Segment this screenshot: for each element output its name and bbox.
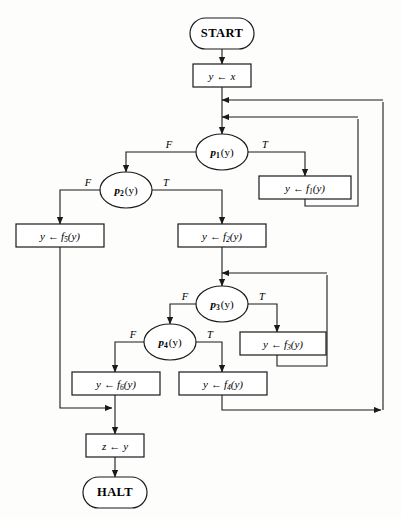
node-f5-lhs: y [39, 229, 45, 241]
node-f6-arg: (y) [124, 377, 137, 390]
node-f1[interactable]: y←f1(y) [259, 176, 351, 199]
node-init-arrow: ← [217, 69, 228, 81]
node-assign-z-lhs: z [101, 439, 107, 451]
node-f3-arrow: ← [271, 337, 282, 349]
node-p1-sub: 1 [216, 150, 220, 159]
node-p1-arg: (y) [221, 145, 234, 158]
branch-label-p1-false: F [165, 139, 173, 150]
node-p3-sub: 3 [216, 302, 220, 311]
edge-p2-false-to-f5 [60, 190, 100, 224]
node-init-val: x [230, 69, 236, 81]
node-f2-arrow: ← [210, 229, 221, 241]
branch-label-p3-true: T [259, 291, 266, 302]
node-f3-lhs: y [262, 337, 268, 349]
flowchart-diagram: START y←x p1(y) F T p2(y) F T [0, 0, 401, 519]
node-f1-arrow: ← [293, 181, 304, 193]
edge-p1-false-to-p2 [126, 152, 196, 172]
branch-label-p2-true: T [163, 177, 170, 188]
node-f5-arg: (y) [68, 229, 81, 242]
node-start[interactable]: START [190, 18, 254, 49]
node-assign-z[interactable]: z←y [86, 434, 144, 457]
node-f2-lhs: y [201, 229, 207, 241]
node-p4-arg: (y) [169, 335, 182, 348]
node-assign-z-rhs: y [122, 439, 128, 451]
node-p3[interactable]: p3(y) [196, 286, 248, 322]
node-start-label: START [201, 26, 244, 40]
node-f3[interactable]: y←f3(y) [240, 332, 326, 355]
node-f2[interactable]: y←f2(y) [178, 224, 266, 247]
node-f6-lhs: y [95, 377, 101, 389]
node-p2[interactable]: p2(y) [100, 172, 152, 208]
node-p4[interactable]: p4(y) [144, 324, 196, 360]
node-f3-arg: (y) [291, 337, 304, 350]
node-f6-arrow: ← [104, 377, 115, 389]
edge-p4-false-to-f6 [115, 342, 144, 372]
edge-p2-true-to-f2 [152, 190, 222, 224]
branch-label-p2-false: F [84, 177, 92, 188]
node-f4-arg: (y) [231, 377, 244, 390]
node-f1-arg: (y) [313, 181, 326, 194]
node-f1-lhs: y [284, 181, 290, 193]
edge-p3-true-to-f3 [248, 304, 277, 332]
node-f4[interactable]: y←f4(y) [179, 372, 267, 395]
flowchart-canvas: START y←x p1(y) F T p2(y) F T [0, 0, 401, 519]
node-f6[interactable]: y←f6(y) [72, 372, 160, 395]
branch-label-p4-false: F [129, 329, 137, 340]
node-halt[interactable]: HALT [83, 477, 147, 508]
node-f2-arg: (y) [230, 229, 243, 242]
node-halt-label: HALT [97, 485, 133, 499]
svg-text:z←y: z←y [101, 439, 128, 451]
branch-label-p1-true: T [262, 139, 269, 150]
node-init[interactable]: y←x [193, 64, 251, 87]
branch-label-p3-false: F [181, 291, 189, 302]
edge-p3-false-to-p4 [170, 304, 196, 324]
node-p2-sub: 2 [120, 188, 124, 197]
edge-p1-true-to-f1 [248, 152, 305, 176]
branch-label-p4-true: T [207, 329, 214, 340]
node-init-var: y [208, 69, 214, 81]
node-assign-z-arrow: ← [109, 439, 120, 451]
node-p3-arg: (y) [221, 297, 234, 310]
node-f5[interactable]: y←f5(y) [16, 224, 104, 247]
node-p4-sub: 4 [164, 340, 168, 349]
node-f5-arrow: ← [48, 229, 59, 241]
edge-f4-loop-back-to-top [222, 395, 381, 410]
node-p1[interactable]: p1(y) [196, 134, 248, 170]
node-f4-arrow: ← [211, 377, 222, 389]
node-f4-lhs: y [202, 377, 208, 389]
edge-layer [60, 49, 383, 477]
node-p2-arg: (y) [125, 183, 138, 196]
edge-p4-true-to-f4 [196, 342, 222, 372]
svg-text:y←x: y←x [208, 69, 236, 81]
